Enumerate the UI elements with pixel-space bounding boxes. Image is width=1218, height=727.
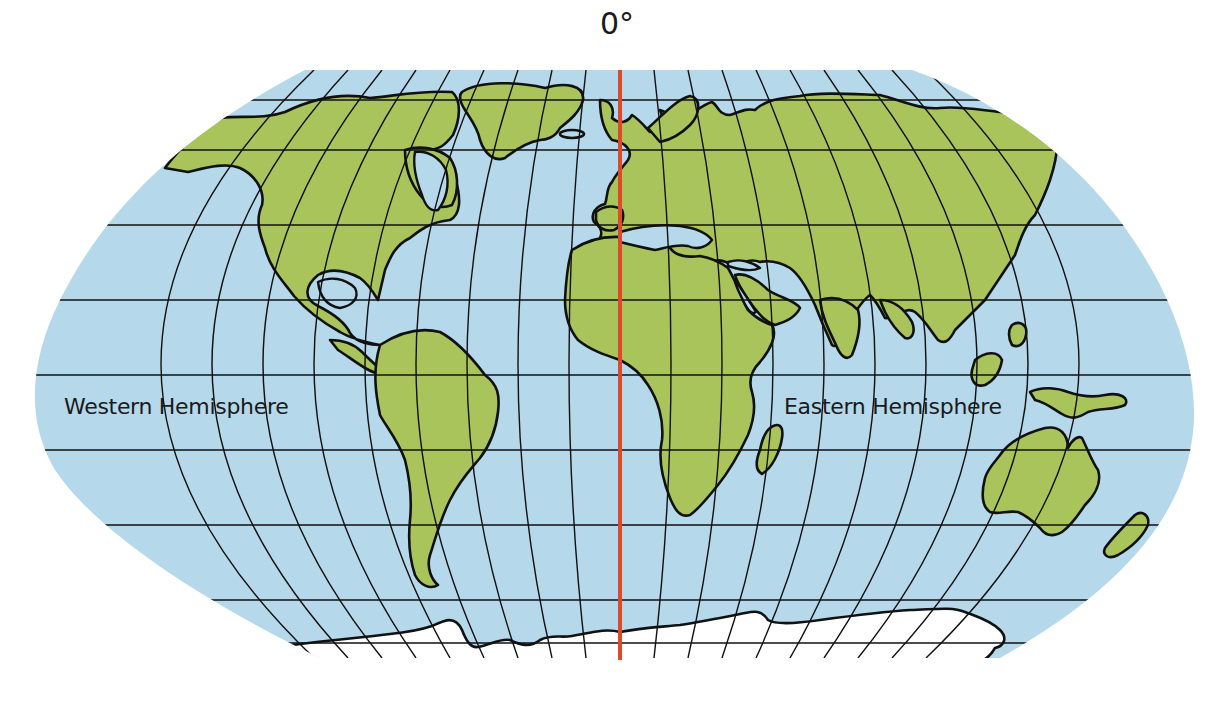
world-map: 0° Western Hemisphere Eastern Hemisphere xyxy=(0,0,1218,727)
western-hemisphere-label: Western Hemisphere xyxy=(64,394,288,419)
japan xyxy=(1009,323,1026,346)
eastern-hemisphere-label: Eastern Hemisphere xyxy=(784,394,1002,419)
map-canvas xyxy=(0,0,1218,727)
prime-meridian-label: 0° xyxy=(600,6,634,41)
iceland xyxy=(560,130,584,138)
